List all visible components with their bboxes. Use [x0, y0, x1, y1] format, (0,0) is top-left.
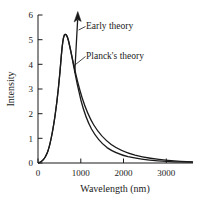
y-tick-label-0: 0: [29, 158, 34, 168]
y-tick-label-1: 1: [29, 134, 34, 144]
chart-canvas: 0 1 2 3 4 5 6 0 1000 2000 3000 Wavelengt…: [0, 0, 200, 203]
y-tick-label-4: 4: [29, 60, 34, 70]
y-tick-label-3: 3: [29, 84, 34, 94]
y-tick-label-5: 5: [29, 35, 34, 45]
axis-group: [38, 15, 193, 163]
y-tick-group: 0 1 2 3 4 5 6: [29, 10, 43, 168]
early-theory-label: Early theory: [86, 21, 133, 31]
y-tick-label-2: 2: [29, 109, 34, 119]
y-tick-label-6: 6: [29, 10, 34, 20]
planck-theory-label: Planck's theory: [86, 51, 144, 61]
x-tick-label-0: 0: [36, 168, 41, 178]
x-tick-label-2: 2000: [115, 168, 134, 178]
blackbody-spectrum-figure: 0 1 2 3 4 5 6 0 1000 2000 3000 Wavelengt…: [0, 0, 200, 203]
x-axis-title: Wavelength (nm): [80, 183, 149, 195]
y-axis-title: Intensity: [5, 72, 16, 107]
x-tick-label-3: 3000: [157, 168, 176, 178]
x-tick-label-1: 1000: [72, 168, 91, 178]
early-theory-leader-line: [79, 27, 86, 31]
x-tick-group: 0 1000 2000 3000: [36, 159, 176, 179]
